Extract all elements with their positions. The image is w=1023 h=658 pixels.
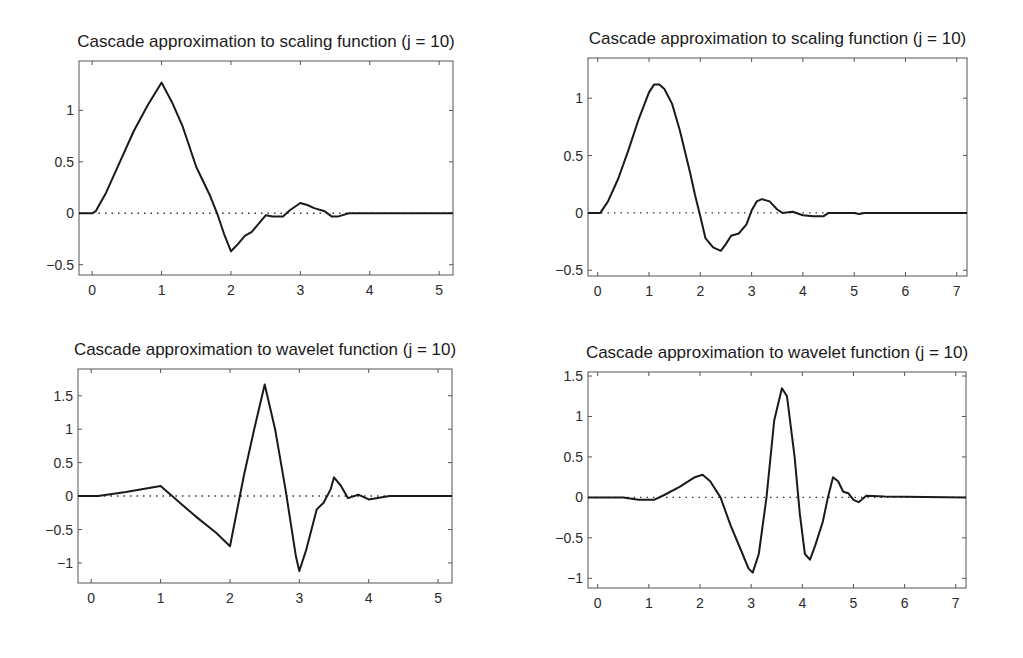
- x-tick-label: 3: [296, 282, 304, 298]
- curve-psi: [78, 384, 452, 571]
- y-tick-label: −0.5: [46, 257, 74, 273]
- x-tick-label: 5: [435, 282, 443, 298]
- y-tick-label: 1: [575, 90, 583, 106]
- x-tick-label: 4: [366, 282, 374, 298]
- x-tick-label: 1: [645, 595, 653, 611]
- x-tick-label: 7: [953, 283, 961, 299]
- subplot-scaling-1: Cascade approximation to scaling functio…: [46, 32, 454, 298]
- axes-frame: [588, 372, 966, 588]
- x-tick-label: 3: [747, 595, 755, 611]
- x-tick-label: 6: [901, 595, 909, 611]
- y-tick-label: 1: [65, 421, 73, 437]
- x-tick-label: 4: [799, 283, 807, 299]
- x-tick-label: 5: [850, 283, 858, 299]
- x-tick-label: 0: [594, 595, 602, 611]
- y-tick-label: 0.5: [55, 154, 75, 170]
- x-tick-label: 1: [158, 282, 166, 298]
- y-tick-label: 1.5: [54, 388, 74, 404]
- x-tick-label: 2: [696, 283, 704, 299]
- subplot-scaling-2: Cascade approximation to scaling functio…: [555, 29, 967, 299]
- x-tick-label: 3: [295, 590, 303, 606]
- plot-title: Cascade approximation to scaling functio…: [589, 29, 967, 48]
- subplot-wavelet-2: Cascade approximation to wavelet functio…: [555, 343, 968, 611]
- y-tick-label: 0.5: [564, 449, 584, 465]
- x-tick-label: 0: [594, 283, 602, 299]
- curve-phi: [588, 84, 967, 250]
- y-tick-label: −0.5: [555, 262, 583, 278]
- x-tick-label: 4: [365, 590, 373, 606]
- y-tick-label: 0.5: [54, 455, 74, 471]
- x-tick-label: 7: [952, 595, 960, 611]
- plot-title: Cascade approximation to wavelet functio…: [586, 343, 968, 362]
- y-tick-label: −0.5: [45, 522, 73, 538]
- y-tick-label: −1: [567, 570, 583, 586]
- x-tick-label: 6: [902, 283, 910, 299]
- y-tick-label: 0: [66, 205, 74, 221]
- axes-frame: [588, 58, 967, 276]
- x-tick-label: 2: [226, 590, 234, 606]
- x-tick-label: 1: [157, 590, 165, 606]
- x-tick-label: 5: [434, 590, 442, 606]
- axes-frame: [78, 369, 452, 583]
- y-tick-label: 0: [65, 488, 73, 504]
- y-tick-label: 1: [66, 102, 74, 118]
- x-tick-label: 2: [696, 595, 704, 611]
- x-tick-label: 0: [88, 282, 96, 298]
- y-tick-label: 0: [575, 205, 583, 221]
- x-tick-label: 1: [645, 283, 653, 299]
- y-tick-label: −1: [57, 555, 73, 571]
- plot-title: Cascade approximation to scaling functio…: [77, 32, 455, 51]
- curve-phi: [79, 83, 453, 252]
- x-tick-label: 2: [227, 282, 235, 298]
- y-tick-label: 0: [575, 489, 583, 505]
- figure: Cascade approximation to scaling functio…: [0, 0, 1023, 658]
- y-tick-label: 0.5: [564, 148, 584, 164]
- y-tick-label: 1.5: [564, 368, 584, 384]
- x-tick-label: 3: [748, 283, 756, 299]
- x-tick-label: 0: [87, 590, 95, 606]
- curve-psi: [588, 388, 966, 572]
- y-tick-label: −0.5: [555, 530, 583, 546]
- subplot-wavelet-1: Cascade approximation to wavelet functio…: [45, 340, 456, 606]
- axes-frame: [79, 61, 453, 275]
- plot-title: Cascade approximation to wavelet functio…: [74, 340, 456, 359]
- y-tick-label: 1: [575, 408, 583, 424]
- x-tick-label: 4: [798, 595, 806, 611]
- x-tick-label: 5: [850, 595, 858, 611]
